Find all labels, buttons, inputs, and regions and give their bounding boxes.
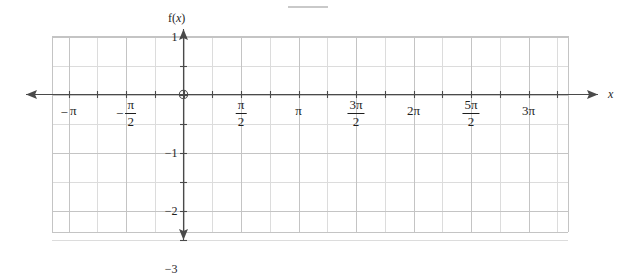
x-axis-line xyxy=(26,90,598,99)
grid-minor-lines xyxy=(52,36,568,241)
axis-ticks xyxy=(70,38,558,256)
y-axis-line xyxy=(179,29,188,240)
grid-major-lines xyxy=(52,36,569,255)
y-tick-label: −3 xyxy=(165,263,178,275)
